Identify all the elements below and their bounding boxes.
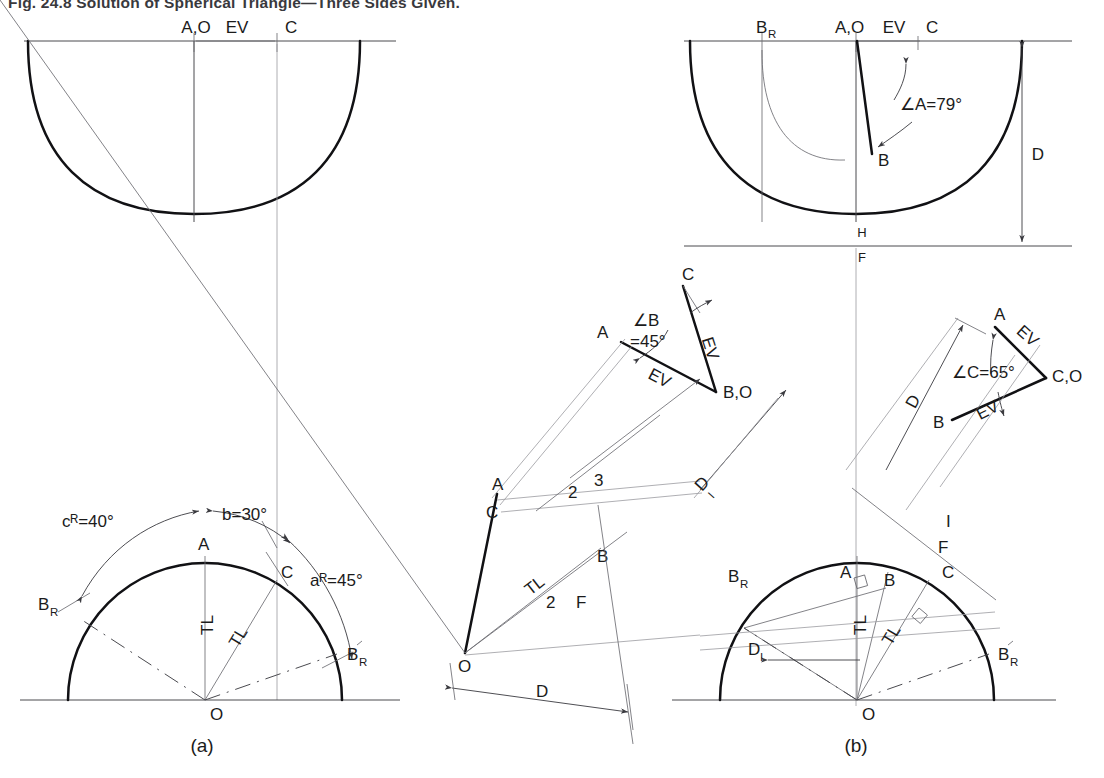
label-a-point-BRprime: B R [347, 641, 367, 668]
svg-text:R: R [50, 606, 58, 618]
svg-text:R: R [359, 656, 367, 668]
label-b-fold-F: F [858, 250, 866, 265]
label-b-bottom-BR: B R [728, 567, 748, 590]
figure-drawing: A,O EV C cᴿ=40° b=30° aᴿ=45° A C [0, 0, 1104, 778]
label-b-bottom-dim-D: D [536, 682, 548, 701]
svg-text:I: I [760, 651, 763, 663]
fold-line-1F-group: I F [852, 488, 996, 600]
label-b-aux-A: A [492, 475, 504, 494]
label-b-top-EV: EV [883, 18, 906, 37]
label-b-top-C: C [926, 18, 938, 37]
label-a-angle-cR: cᴿ=40° [62, 512, 114, 531]
svg-text:R: R [1010, 656, 1018, 668]
label-a-point-BR: B R [38, 595, 58, 618]
label-b-aux-fold3: 3 [594, 471, 603, 490]
label-fold1-num: I [946, 512, 951, 531]
label-b-triC-B: B [933, 413, 944, 432]
label-b-bottom-dim-D1: D I [748, 640, 763, 663]
label-b-angle-A: ∠A=79° [900, 95, 962, 114]
label-b-dim-D-top: D [1032, 145, 1044, 164]
label-a-point-O: O [210, 705, 223, 724]
svg-text:B: B [728, 567, 739, 586]
label-b-triB-BO: B,O [723, 383, 752, 402]
svg-text:R: R [740, 578, 748, 590]
svg-text:B: B [38, 595, 49, 614]
label-a-point-C: C [281, 563, 293, 582]
label-a-top-EV: EV [226, 18, 249, 37]
label-b-bottom-A: A [840, 563, 852, 582]
svg-text:D: D [748, 640, 760, 659]
caption-b: (b) [844, 735, 867, 756]
label-fold1-letter: F [938, 538, 948, 557]
label-a-tl-1: TL [198, 615, 217, 635]
view-b-triangle-C-group [846, 318, 1046, 510]
svg-text:B: B [756, 18, 767, 37]
label-b-bottom-C: C [942, 563, 954, 582]
label-b-triB-ev-2: EV [698, 335, 723, 363]
label-fold2-num: 2 [546, 593, 555, 612]
view-b-top-group [684, 33, 1072, 246]
label-b-aux-fold2: 2 [568, 483, 577, 502]
label-a-angle-aR: aᴿ=45° [310, 571, 363, 590]
fold-line-2F-group: 2 F [546, 505, 633, 744]
label-b-triC-dim-D: D [902, 392, 925, 412]
label-b-aux-dim-D1: D I [691, 473, 717, 501]
label-b-aux-tl: TL [521, 572, 548, 599]
view-a-bottom-group [20, 511, 400, 700]
svg-text:D: D [691, 473, 713, 495]
label-b-aux-O: O [458, 657, 471, 676]
svg-text:I: I [706, 490, 717, 500]
label-b-bottom-BRprime: B R [998, 641, 1018, 668]
svg-text:B: B [347, 645, 358, 664]
label-b-triB-angle-l2: =45° [630, 332, 666, 351]
view-b-aux-left-group [0, 0, 786, 655]
label-a-tl-2: TL [225, 624, 252, 651]
svg-text:B: B [998, 645, 1009, 664]
label-b-bottom-O: O [862, 705, 875, 724]
label-a-top-C: C [285, 18, 297, 37]
label-b-bottom-B: B [884, 571, 895, 590]
label-a-top-AO: A,O [181, 18, 210, 37]
label-b-triB-A: A [597, 323, 609, 342]
label-fold2-letter: F [576, 593, 586, 612]
label-b-triC-CO: C,O [1052, 367, 1082, 386]
figure-page: Fig. 24.8 Solution of Spherical Triangle… [0, 0, 1104, 778]
label-b-triC-A: A [994, 305, 1006, 324]
label-a-angle-b: b=30° [222, 505, 267, 524]
caption-a: (a) [190, 735, 213, 756]
label-b-triB-angle-l1: ∠B [633, 311, 659, 330]
label-b-triB-C: C [682, 265, 694, 284]
label-b-top-AO: A,O [835, 18, 864, 37]
label-b-top-point-B: B [878, 151, 889, 170]
label-a-point-A: A [198, 535, 210, 554]
view-a-top-group [24, 33, 396, 700]
label-b-triC-angle: ∠C=65° [952, 363, 1015, 382]
label-b-bottom-tl-2: TL [878, 622, 905, 649]
label-b-bottom-tl-1: TL [851, 615, 870, 635]
label-b-top-BR: B R [756, 18, 776, 40]
svg-text:R: R [768, 28, 776, 40]
label-b-aux-C: C [486, 503, 498, 522]
label-b-fold-H: H [857, 225, 866, 240]
